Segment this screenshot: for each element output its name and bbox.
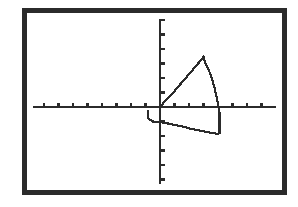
calculator-screen-bezel xyxy=(22,8,287,195)
graph-canvas xyxy=(27,13,282,190)
screenshot-root xyxy=(0,0,298,207)
plot-area xyxy=(27,13,282,190)
series-lower-branch xyxy=(148,110,220,134)
tick-marks-group xyxy=(44,20,262,180)
axes-group xyxy=(33,19,276,184)
data-series-group xyxy=(148,57,220,134)
